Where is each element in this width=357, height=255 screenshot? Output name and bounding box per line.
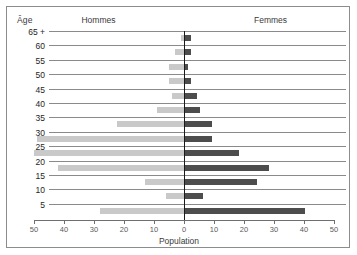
x-tick <box>64 220 65 224</box>
x-tick <box>34 220 35 224</box>
gridline <box>49 60 346 61</box>
legend-label-hommes: Hommes <box>7 15 190 25</box>
bar-femmes <box>185 179 257 185</box>
x-tick-label: 50 <box>322 225 346 234</box>
gridline <box>49 89 346 90</box>
age-tick-label: 65 + <box>7 27 45 37</box>
x-tick <box>124 220 125 224</box>
bar-hommes <box>34 150 184 156</box>
pyramid-row: 20 <box>7 161 351 175</box>
x-tick-label: 40 <box>292 225 316 234</box>
x-tick-label: 10 <box>142 225 166 234</box>
x-tick <box>334 220 335 224</box>
x-axis: 504030201001020304050 Population <box>7 220 351 244</box>
pyramid-row: 30 <box>7 132 351 146</box>
gridline <box>49 161 346 162</box>
x-tick-label: 10 <box>202 225 226 234</box>
age-tick-label: 40 <box>7 99 45 109</box>
age-tick-label: 20 <box>7 157 45 167</box>
age-tick-label: 60 <box>7 41 45 51</box>
x-tick <box>154 220 155 224</box>
age-tick-label: 55 <box>7 56 45 66</box>
bar-femmes <box>185 78 191 84</box>
age-tick-label: 15 <box>7 171 45 181</box>
gridline <box>49 31 346 32</box>
gridline <box>49 103 346 104</box>
age-tick-label: 5 <box>7 200 45 210</box>
pyramid-row: 45 <box>7 89 351 103</box>
bar-hommes <box>58 165 184 171</box>
gridline <box>49 45 346 46</box>
x-axis-title: Population <box>7 236 351 246</box>
bar-femmes <box>185 121 212 127</box>
pyramid-row: 55 <box>7 60 351 74</box>
age-tick-label: 45 <box>7 85 45 95</box>
chart-header: Âge Hommes Femmes <box>7 15 351 29</box>
pyramid-row: 65 + <box>7 31 351 45</box>
bar-femmes <box>185 49 191 55</box>
bar-hommes <box>169 64 184 70</box>
x-tick-label: 0 <box>172 225 196 234</box>
x-tick <box>214 220 215 224</box>
pyramid-row: 50 <box>7 74 351 88</box>
gridline <box>49 175 346 176</box>
bar-hommes <box>172 93 184 99</box>
bar-hommes <box>37 136 184 142</box>
x-tick-label: 20 <box>112 225 136 234</box>
plot-area: 65 +60555045403530252015105 <box>7 31 351 220</box>
x-tick <box>184 220 185 224</box>
bar-hommes <box>157 107 184 113</box>
bar-femmes <box>185 208 305 214</box>
x-tick-label: 50 <box>22 225 46 234</box>
x-tick <box>94 220 95 224</box>
bar-femmes <box>185 35 191 41</box>
x-tick <box>304 220 305 224</box>
bar-femmes <box>185 93 197 99</box>
gridline <box>49 189 346 190</box>
gridline <box>49 146 346 147</box>
gridline <box>49 74 346 75</box>
bar-hommes <box>175 49 184 55</box>
pyramid-row: 15 <box>7 175 351 189</box>
chart-frame: Âge Hommes Femmes 65 +605550454035302520… <box>6 6 350 248</box>
bar-hommes <box>166 193 184 199</box>
bar-hommes <box>100 208 184 214</box>
bar-femmes <box>185 107 200 113</box>
pyramid-row: 25 <box>7 146 351 160</box>
bar-hommes <box>117 121 185 127</box>
bar-femmes <box>185 150 239 156</box>
age-tick-label: 10 <box>7 185 45 195</box>
age-tick-label: 50 <box>7 70 45 80</box>
bar-femmes <box>185 193 203 199</box>
x-tick <box>244 220 245 224</box>
bar-femmes <box>185 136 212 142</box>
bar-hommes <box>145 179 184 185</box>
x-tick <box>274 220 275 224</box>
pyramid-row: 60 <box>7 45 351 59</box>
center-axis-line <box>184 31 185 220</box>
age-tick-label: 35 <box>7 113 45 123</box>
legend-label-femmes: Femmes <box>190 15 351 25</box>
bar-femmes <box>185 165 269 171</box>
pyramid-row: 35 <box>7 117 351 131</box>
x-tick-label: 30 <box>262 225 286 234</box>
x-tick-label: 40 <box>52 225 76 234</box>
x-tick-label: 20 <box>232 225 256 234</box>
bar-hommes <box>169 78 184 84</box>
gridline <box>49 204 346 205</box>
pyramid-row: 10 <box>7 189 351 203</box>
pyramid-row: 5 <box>7 204 351 218</box>
bar-femmes <box>185 64 188 70</box>
pyramid-row: 40 <box>7 103 351 117</box>
x-tick-label: 30 <box>82 225 106 234</box>
gridline <box>49 117 346 118</box>
gridline <box>49 132 346 133</box>
